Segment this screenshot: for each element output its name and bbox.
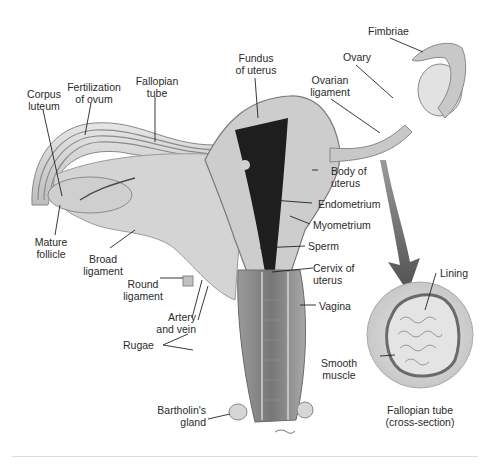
label-broad-ligament: Broad ligament — [80, 253, 126, 277]
fallopian-tube-cross-section — [367, 282, 473, 388]
label-ovarian-ligament: Ovarian ligament — [308, 74, 352, 98]
label-endometrium: Endometrium — [318, 198, 380, 210]
label-smooth-muscle: Smooth muscle — [316, 357, 362, 381]
vagina-shape — [238, 270, 306, 422]
arrow-to-cross-section — [380, 160, 420, 292]
label-sperm: Sperm — [308, 240, 339, 252]
label-lining: Lining — [440, 267, 468, 279]
bottom-divider — [12, 456, 478, 457]
label-mature-follicle: Mature follicle — [28, 236, 74, 260]
label-rugae: Rugae — [123, 339, 154, 351]
label-vagina: Vagina — [319, 300, 351, 312]
label-corpus-luteum: Corpus luteum — [18, 88, 70, 112]
caption-fallopian-tube-cross-section: Fallopian tube (cross-section) — [375, 404, 465, 428]
label-cervix-of-uterus: Cervix of uterus — [313, 262, 354, 286]
label-artery-and-vein: Artery and vein — [148, 311, 196, 335]
label-round-ligament: Round ligament — [121, 278, 165, 302]
label-body-of-uterus: Body of uterus — [331, 165, 367, 189]
label-fimbriae: Fimbriae — [368, 25, 409, 37]
label-fertilization-of-ovum: Fertilization of ovum — [64, 81, 124, 105]
label-myometrium: Myometrium — [313, 219, 371, 231]
label-fundus-of-uterus: Fundus of uterus — [228, 52, 284, 76]
anatomy-figure: Corpus luteum Fertilization of ovum Fall… — [0, 0, 490, 467]
label-ovary: Ovary — [343, 51, 371, 63]
label-fallopian-tube: Fallopian tube — [133, 75, 181, 99]
label-bartholins-gland: Bartholin's gland — [150, 404, 206, 428]
artist-signature — [275, 430, 295, 433]
